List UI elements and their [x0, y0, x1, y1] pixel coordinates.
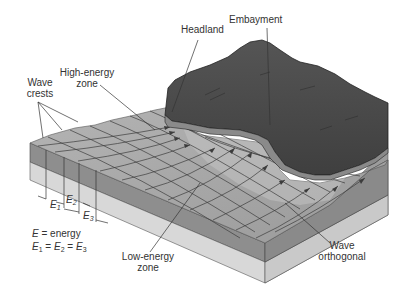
e1-label: E1 — [50, 199, 61, 210]
legend-e3-sub: 3 — [83, 246, 87, 253]
wave-crest-leader-3 — [38, 102, 78, 122]
low-energy-zone-label: Low-energy zone — [118, 251, 178, 273]
wave-crests-line2: crests — [22, 88, 58, 99]
e1-sub: 1 — [57, 204, 61, 211]
wave-orthogonal-line1: Wave — [312, 240, 372, 251]
wave-orthogonal-line2: orthogonal — [312, 251, 372, 262]
e3-var: E — [83, 210, 90, 221]
low-energy-line2: zone — [118, 262, 178, 273]
e2-sub: 2 — [73, 199, 77, 206]
wave-crests-line1: Wave — [22, 77, 58, 88]
energy-legend-line2: E1 = E2 = E3 — [32, 241, 87, 252]
energy-legend-line1: E = energy — [32, 228, 81, 239]
low-energy-line1: Low-energy — [118, 251, 178, 262]
legend-e-var: E — [32, 228, 39, 239]
high-energy-line1: High-energy — [56, 67, 118, 78]
wave-crests-label: Wave crests — [22, 77, 58, 99]
e3-sub: 3 — [90, 215, 94, 222]
e1-var: E — [50, 199, 57, 210]
legend-e3-var: E — [76, 241, 83, 252]
headland-label: Headland — [181, 24, 224, 35]
high-energy-line2: zone — [56, 78, 118, 89]
wave-orthogonal-label: Wave orthogonal — [312, 240, 372, 262]
e2-var: E — [66, 194, 73, 205]
legend-equals-1: = — [43, 241, 54, 252]
high-energy-zone-label: High-energy zone — [56, 67, 118, 89]
legend-equals-2: = — [65, 241, 76, 252]
embayment-label: Embayment — [229, 14, 282, 25]
e3-label: E3 — [83, 210, 94, 221]
legend-e1-var: E — [32, 241, 39, 252]
legend-e2-var: E — [54, 241, 61, 252]
e2-label: E2 — [66, 194, 77, 205]
legend-energy-text: = energy — [39, 228, 81, 239]
